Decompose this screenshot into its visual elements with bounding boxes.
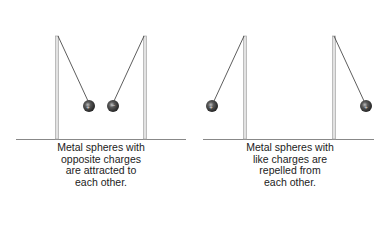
panel-attract: + − xyxy=(16,36,186,140)
charge-sign-plus: + xyxy=(209,104,213,110)
caption-line: each other. xyxy=(230,177,350,189)
caption-line: Metal spheres with xyxy=(230,142,350,154)
charge-sign-minus: − xyxy=(111,102,115,109)
caption-line: each other. xyxy=(41,177,161,189)
caption-line: Metal spheres with xyxy=(41,142,161,154)
string-left xyxy=(58,36,88,101)
charge-sign-plus: + xyxy=(86,104,90,110)
string-left xyxy=(214,36,244,101)
string-right xyxy=(334,36,364,101)
pole-right xyxy=(333,36,336,139)
pole-left xyxy=(56,36,59,139)
pole-left xyxy=(244,36,247,139)
charge-sign-plus: + xyxy=(364,104,368,110)
string-right xyxy=(114,36,144,101)
pole-right xyxy=(144,36,147,139)
caption-line: are attracted to xyxy=(41,165,161,177)
caption-repel: Metal spheres with like charges are repe… xyxy=(230,142,350,188)
caption-line: repelled from xyxy=(230,165,350,177)
panel-repel: + + xyxy=(203,36,374,140)
caption-attract: Metal spheres with opposite charges are … xyxy=(41,142,161,188)
